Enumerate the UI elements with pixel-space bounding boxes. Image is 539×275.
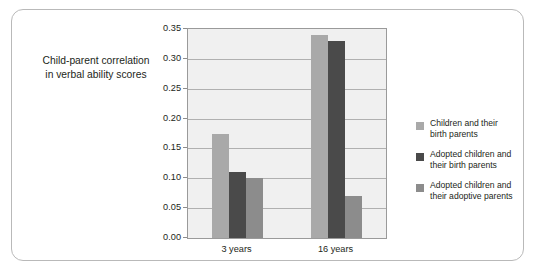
bar (328, 41, 345, 238)
y-axis-title-line1: Child-parent correlation (42, 55, 149, 66)
legend-item-label-line2: their birth parents (430, 160, 497, 170)
y-axis-tick-label: 0.05 (147, 202, 181, 212)
y-axis-title-line2: in verbal ability scores (20, 68, 172, 82)
bar-group (212, 134, 263, 239)
y-axis-tick-label: 0.30 (147, 53, 181, 63)
legend-item-label-line1: Adopted children and (430, 180, 511, 190)
legend-swatch-icon (416, 184, 424, 192)
legend-item: Children and theirbirth parents (416, 118, 534, 140)
x-axis-tick-label: 16 years (318, 244, 353, 254)
bar (345, 196, 362, 238)
legend-swatch-icon (416, 153, 424, 161)
bar (246, 178, 263, 238)
legend-item-label-line2: birth parents (430, 129, 478, 139)
y-axis-tick-label: 0.25 (147, 83, 181, 93)
legend-swatch-icon (416, 122, 424, 130)
y-axis-tick-label: 0.00 (147, 232, 181, 242)
chart-legend: Children and theirbirth parentsAdopted c… (416, 118, 534, 211)
plot-area (187, 28, 387, 239)
legend-item-label: Children and theirbirth parents (430, 118, 498, 140)
y-axis-tick-label: 0.35 (147, 23, 181, 33)
x-axis-tick-label: 3 years (221, 244, 251, 254)
bar (229, 172, 246, 238)
legend-item-label-line1: Adopted children and (430, 149, 511, 159)
legend-item: Adopted children andtheir adoptive paren… (416, 180, 534, 202)
legend-item-label: Adopted children andtheir adoptive paren… (430, 180, 513, 202)
y-axis-tick-label: 0.20 (147, 113, 181, 123)
legend-item-label-line1: Children and their (430, 118, 498, 128)
chart-figure: Child-parent correlation in verbal abili… (11, 9, 524, 261)
y-axis-tick-label: 0.15 (147, 142, 181, 152)
legend-item: Adopted children andtheir birth parents (416, 149, 534, 171)
legend-item-label: Adopted children andtheir birth parents (430, 149, 511, 171)
bar (212, 134, 229, 239)
legend-item-label-line2: their adoptive parents (430, 191, 513, 201)
bar-group (311, 35, 362, 238)
y-axis-tick-label: 0.10 (147, 172, 181, 182)
bar (311, 35, 328, 238)
